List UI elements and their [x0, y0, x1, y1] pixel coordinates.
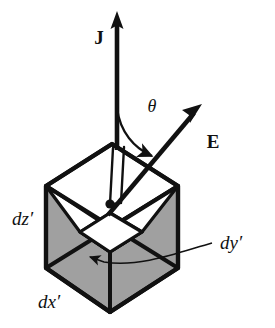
figure-canvas: J E θ dz′ dx′ dy′ [0, 0, 275, 328]
label-dim-x: dx′ [38, 291, 61, 312]
label-electric-field: E [207, 131, 220, 152]
physics-figure: J E θ dz′ dx′ dy′ [0, 0, 275, 328]
label-dim-y: dy′ [220, 232, 243, 253]
label-theta: θ [148, 96, 157, 116]
label-dim-z: dz′ [12, 208, 34, 229]
label-current-density: J [94, 27, 104, 48]
